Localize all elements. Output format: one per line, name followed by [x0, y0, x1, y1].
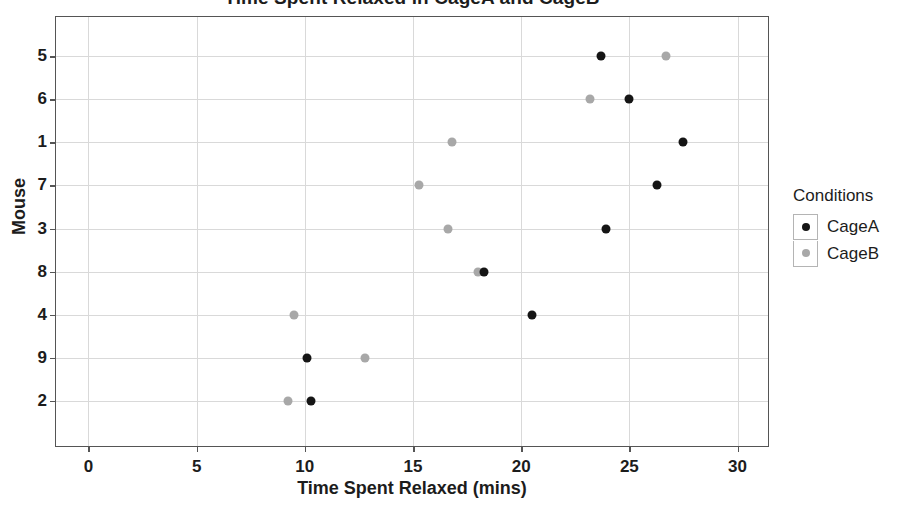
data-point-cagea [679, 138, 688, 147]
y-axis-tick [50, 272, 56, 274]
legend: Conditions CageACageB [793, 186, 901, 267]
y-axis-tick [50, 315, 56, 317]
x-axis-tick [629, 446, 631, 452]
y-axis-tick-label: 7 [38, 175, 47, 195]
data-point-cagea [528, 310, 537, 319]
legend-item[interactable]: CageB [793, 240, 901, 267]
plot-inner: 561738492051015202530 [56, 17, 768, 446]
x-axis-tick-label: 5 [192, 457, 201, 477]
legend-swatch [793, 241, 818, 267]
gridline-horizontal [56, 272, 768, 273]
y-axis-title: Mouse [9, 172, 30, 242]
data-point-cagea [653, 181, 662, 190]
legend-title: Conditions [793, 186, 901, 206]
dot-gray-icon [802, 249, 810, 257]
scatter-chart: Time Spent Relaxed in CageA and CageB Mo… [0, 0, 904, 505]
y-axis-tick-label: 4 [38, 305, 47, 325]
gridline-vertical [629, 17, 630, 446]
y-axis-tick-label: 1 [38, 132, 47, 152]
x-axis-tick-label: 25 [620, 457, 639, 477]
legend-item[interactable]: CageA [793, 213, 901, 240]
gridline-vertical [413, 17, 414, 446]
data-point-cagea [307, 396, 316, 405]
data-point-cagea [597, 52, 606, 61]
data-point-cageb [283, 396, 292, 405]
gridline-horizontal [56, 315, 768, 316]
y-axis-tick-label: 5 [38, 46, 47, 66]
x-axis-tick [521, 446, 523, 452]
data-point-cageb [290, 310, 299, 319]
gridline-vertical [738, 17, 739, 446]
y-axis-tick [50, 56, 56, 58]
x-axis-title: Time Spent Relaxed (mins) [55, 478, 769, 499]
data-point-cageb [415, 181, 424, 190]
y-axis-tick [50, 185, 56, 187]
gridline-horizontal [56, 401, 768, 402]
data-point-cagea [302, 353, 311, 362]
x-axis-tick [413, 446, 415, 452]
y-axis-tick-label: 9 [38, 348, 47, 368]
data-point-cageb [361, 353, 370, 362]
gridline-horizontal [56, 99, 768, 100]
x-axis-tick [197, 446, 199, 452]
data-point-cageb [586, 95, 595, 104]
data-point-cagea [480, 267, 489, 276]
plot-area: 561738492051015202530 [55, 16, 769, 447]
x-axis-tick-label: 0 [84, 457, 93, 477]
x-axis-tick-label: 30 [728, 457, 747, 477]
x-axis-tick-label: 15 [404, 457, 423, 477]
y-axis-tick [50, 401, 56, 403]
x-axis-tick-label: 20 [512, 457, 531, 477]
data-point-cagea [625, 95, 634, 104]
y-axis-tick-label: 2 [38, 391, 47, 411]
gridline-vertical [305, 17, 306, 446]
gridline-horizontal [56, 142, 768, 143]
legend-items: CageACageB [793, 213, 901, 267]
y-axis-tick-label: 6 [38, 89, 47, 109]
x-axis-tick [88, 446, 90, 452]
y-axis-tick [50, 229, 56, 231]
x-axis-tick [738, 446, 740, 452]
y-axis-tick [50, 358, 56, 360]
data-point-cageb [443, 224, 452, 233]
data-point-cagea [601, 224, 610, 233]
data-point-cageb [447, 138, 456, 147]
gridline-vertical [197, 17, 198, 446]
chart-title: Time Spent Relaxed in CageA and CageB [55, 0, 769, 9]
gridline-horizontal [56, 358, 768, 359]
legend-swatch [793, 214, 818, 240]
x-axis-tick [305, 446, 307, 452]
y-axis-tick-label: 8 [38, 262, 47, 282]
gridline-vertical [88, 17, 89, 446]
dot-black-icon [802, 223, 810, 231]
y-axis-tick [50, 99, 56, 101]
gridline-horizontal [56, 229, 768, 230]
legend-item-label: CageB [827, 244, 879, 264]
y-axis-tick [50, 142, 56, 144]
gridline-vertical [521, 17, 522, 446]
legend-item-label: CageA [827, 217, 879, 237]
data-point-cageb [662, 52, 671, 61]
x-axis-tick-label: 10 [295, 457, 314, 477]
y-axis-tick-label: 3 [38, 219, 47, 239]
